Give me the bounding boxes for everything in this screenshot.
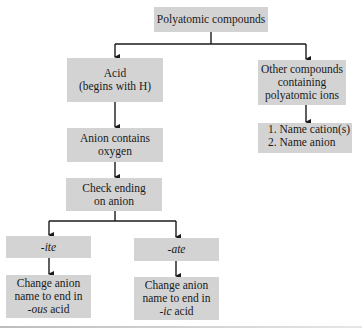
node-naming-steps: 1. Name cation(s) 2. Name anion: [258, 123, 352, 153]
node-label-line3: -ous acid: [28, 303, 70, 316]
node-polyatomic-compounds: Polyatomic compounds: [154, 7, 268, 32]
node-ite: -ite: [6, 236, 91, 258]
node-label-line1: Change anion: [145, 279, 209, 292]
step-2: 2. Name anion: [268, 136, 335, 149]
node-label: Polyatomic compounds: [157, 13, 265, 26]
node-ate: -ate: [134, 238, 219, 261]
node-check-ending: Check ending on anion: [66, 178, 162, 211]
step-1: 1. Name cation(s): [268, 123, 350, 136]
node-label-line3: polyatomic ions: [265, 89, 339, 102]
node-label-line2: name to end in: [14, 290, 82, 303]
node-label-line2: name to end in: [142, 292, 210, 305]
node-label-line1: Anion contains: [80, 132, 150, 145]
suffix-tail: acid: [47, 303, 69, 315]
node-label-line1: Check ending: [82, 182, 146, 195]
node-acid: Acid (begins with H): [67, 58, 163, 102]
suffix-tail: acid: [172, 305, 194, 317]
node-label: -ite: [41, 241, 56, 254]
node-ous-acid-rule: Change anion name to end in -ous acid: [6, 275, 91, 318]
node-label-line1: Other compounds: [261, 63, 343, 76]
node-ic-acid-rule: Change anion name to end in -ic acid: [134, 277, 219, 320]
node-label-line1: Change anion: [17, 277, 81, 290]
node-anion-contains-oxygen: Anion contains oxygen: [67, 128, 163, 162]
node-label-line2: on anion: [94, 195, 134, 208]
node-label-line3: -ic acid: [159, 305, 193, 318]
bottom-divider: [0, 326, 362, 328]
node-label-line2: oxygen: [98, 145, 132, 158]
node-other-compounds: Other compounds containing polyatomic io…: [258, 60, 346, 105]
node-label-line2: (begins with H): [79, 80, 151, 93]
suffix: -ic: [159, 305, 171, 317]
node-label-line1: Acid: [104, 67, 126, 80]
node-label-line2: containing: [278, 76, 327, 89]
node-label: -ate: [168, 243, 186, 256]
suffix: -ous: [28, 303, 48, 315]
